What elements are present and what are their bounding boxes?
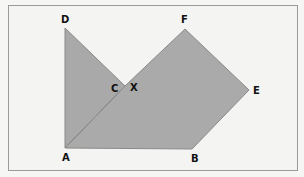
label-B: B [191,153,199,164]
label-A: A [62,152,70,163]
geometry-diagram: D F C X E A B [0,0,304,177]
label-C: C [111,83,118,94]
label-X: X [130,82,138,93]
label-F: F [181,14,188,25]
label-E: E [253,85,260,96]
label-D: D [61,14,69,25]
